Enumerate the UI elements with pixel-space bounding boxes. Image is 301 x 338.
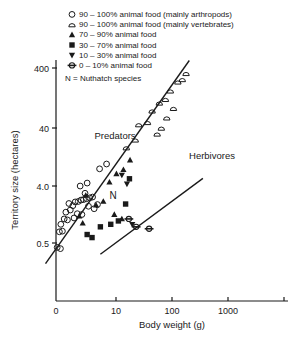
figure-container: 0.54.040400Territory size (hectares)0101…: [0, 0, 301, 338]
y-tick-label: 400: [34, 64, 49, 74]
legend-label: 90 – 100% animal food (mainly arthropods…: [79, 10, 232, 19]
data-point: [98, 224, 103, 229]
data-point: [123, 147, 129, 150]
legend-label: 10 – 30% animal food: [79, 51, 156, 60]
data-point: [89, 235, 94, 240]
legend-note-nuthatch: N = Nuthatch species: [65, 74, 141, 83]
y-tick-label: 0.5: [36, 239, 49, 249]
annotation-nuthatch: N: [109, 190, 116, 201]
legend-label: 90 – 100% animal food (mainly vertebrate…: [79, 20, 234, 29]
y-tick-label: 4.0: [36, 182, 49, 192]
data-point: [149, 110, 155, 113]
legend-label: 30 – 70% animal food: [79, 41, 156, 50]
scatter-plot: 0.54.040400Territory size (hectares)0101…: [0, 0, 301, 338]
y-tick-label: 40: [39, 124, 49, 134]
data-point: [116, 218, 121, 223]
data-point: [164, 117, 170, 120]
legend-symbol-open-dome: [69, 24, 75, 27]
annotation-predators: Predators: [94, 130, 135, 141]
x-tick-label: 100: [164, 306, 179, 316]
data-point: [104, 161, 110, 167]
annotation-herbivores: Herbivores: [189, 150, 235, 161]
data-point: [124, 216, 133, 221]
data-point: [119, 173, 125, 179]
data-point: [120, 166, 126, 172]
data-point: [170, 107, 176, 110]
legend-symbol-filled-square: [69, 42, 74, 47]
data-point: [179, 78, 185, 81]
data-point: [106, 179, 112, 185]
x-tick-label: 0: [53, 306, 58, 316]
data-point: [154, 133, 160, 136]
data-point: [183, 72, 189, 75]
legend-symbol-filled-triangle-down: [69, 53, 75, 59]
data-point: [71, 215, 77, 221]
data-point: [124, 182, 130, 188]
legend-symbol-barred-circle: [68, 63, 77, 68]
data-point: [58, 221, 64, 227]
data-point: [113, 171, 119, 177]
data-point: [145, 226, 154, 231]
legend-symbol-open-circle: [69, 12, 75, 18]
data-point: [127, 157, 133, 163]
data-point: [97, 166, 103, 172]
data-point: [127, 176, 132, 181]
data-point: [84, 180, 90, 186]
x-tick-label: 10: [111, 306, 121, 316]
x-axis-label: Body weight (g): [139, 319, 205, 330]
y-axis-label: Territory size (hectares): [9, 130, 20, 229]
data-point: [111, 211, 117, 217]
data-point: [80, 220, 86, 226]
data-point: [123, 201, 128, 206]
data-point: [77, 183, 83, 189]
data-point: [100, 198, 106, 204]
x-tick-label: 1000: [218, 306, 238, 316]
data-point: [158, 127, 164, 130]
data-point: [136, 124, 142, 127]
legend-label: 70 – 90% animal food: [79, 30, 156, 39]
legend-label: 0 – 10% animal food: [79, 61, 152, 70]
data-point: [84, 232, 89, 237]
data-point: [93, 202, 99, 208]
data-point: [108, 222, 113, 227]
legend-symbol-filled-triangle-up: [69, 32, 75, 38]
data-point: [162, 98, 168, 101]
